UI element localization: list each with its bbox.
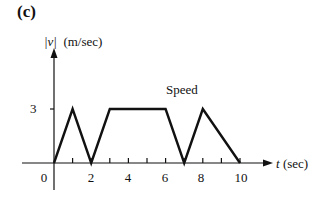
speed-plot <box>0 0 323 211</box>
speed-line <box>54 109 240 163</box>
x-ticks <box>73 158 240 163</box>
y-axis-arrow-icon <box>51 48 58 58</box>
x-axis-arrow-icon <box>263 160 273 167</box>
